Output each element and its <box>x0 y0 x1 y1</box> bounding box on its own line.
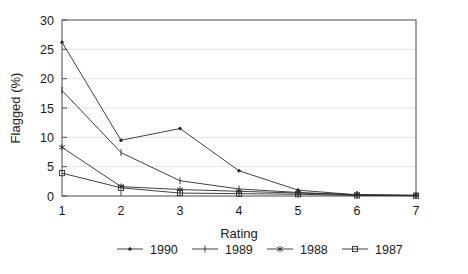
legend-entry-1987[interactable]: 1987 <box>342 243 403 257</box>
series-1990 <box>61 41 418 197</box>
x-tick-label-1: 1 <box>59 204 66 218</box>
datapoint-1990-x3 <box>179 127 182 130</box>
x-axis-title: Rating <box>220 226 258 241</box>
y-tick-label-25: 25 <box>40 43 54 57</box>
y-axis-title: Flagged (%) <box>8 73 23 144</box>
legend-marker-1990 <box>129 248 132 251</box>
datapoint-1990-x4 <box>238 169 241 172</box>
x-tick-label-7: 7 <box>413 204 420 218</box>
x-tick-label-5: 5 <box>295 204 302 218</box>
marker-dot <box>129 248 132 251</box>
y-tick-label-15: 15 <box>40 102 54 116</box>
marker-dot <box>179 127 182 130</box>
gridlines-group <box>62 49 416 166</box>
legend-entry-1989[interactable]: 1989 <box>192 243 253 257</box>
y-tick-label-30: 30 <box>40 14 54 28</box>
y-tick-label-10: 10 <box>40 131 54 145</box>
datapoint-1988-x1 <box>59 144 65 150</box>
chart-legend: 1990198919881987 <box>117 243 403 257</box>
x-tick-label-2: 2 <box>118 204 125 218</box>
y-tick-label-5: 5 <box>47 160 54 174</box>
line-chart: 051015202530 1234567 Flagged (%) Rating … <box>0 0 468 274</box>
y-tick-label-0: 0 <box>47 190 54 204</box>
chart-figure: 051015202530 1234567 Flagged (%) Rating … <box>0 0 468 274</box>
legend-label-1987: 1987 <box>375 243 403 257</box>
x-tick-label-3: 3 <box>177 204 184 218</box>
legend-label-1990: 1990 <box>150 243 178 257</box>
legend-label-1988: 1988 <box>300 243 328 257</box>
x-tick-label-6: 6 <box>354 204 361 218</box>
datapoint-1990-x1 <box>61 41 64 44</box>
marker-dot <box>120 139 123 142</box>
series-line-1989 <box>62 90 416 195</box>
series-1989 <box>62 87 416 199</box>
y-axis-tick-labels: 051015202530 <box>40 14 54 204</box>
legend-entry-1990[interactable]: 1990 <box>117 243 178 257</box>
y-tick-label-20: 20 <box>40 72 54 86</box>
datapoint-1990-x2 <box>120 139 123 142</box>
marker-dot <box>238 169 241 172</box>
x-tick-label-4: 4 <box>236 204 243 218</box>
x-axis-tick-labels: 1234567 <box>59 204 420 218</box>
marker-dot <box>61 41 64 44</box>
legend-entry-1988[interactable]: 1988 <box>267 243 328 257</box>
legend-label-1989: 1989 <box>225 243 253 257</box>
data-series-group <box>59 41 419 199</box>
